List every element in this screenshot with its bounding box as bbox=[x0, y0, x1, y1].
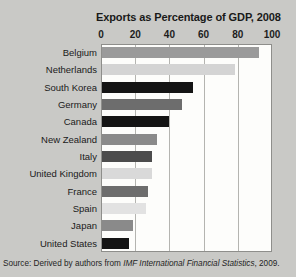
bar-row: Japan bbox=[0, 217, 296, 234]
bar-united-kingdom bbox=[102, 168, 152, 179]
x-axis-tick-labels: 020406080100 bbox=[0, 29, 296, 43]
x-tick-label-0: 0 bbox=[98, 29, 104, 40]
bar-belgium bbox=[102, 47, 259, 58]
x-tick-label-80: 80 bbox=[232, 29, 243, 40]
category-label: United Kingdom bbox=[0, 168, 97, 179]
bar-japan bbox=[102, 220, 133, 231]
source-suffix: , 2009. bbox=[255, 259, 280, 268]
bar-france bbox=[102, 186, 148, 197]
x-tick-label-40: 40 bbox=[164, 29, 175, 40]
category-label: Spain bbox=[0, 203, 97, 214]
category-label: Netherlands bbox=[0, 64, 97, 75]
x-tick-label-60: 60 bbox=[198, 29, 209, 40]
source-prefix: Source: Derived by authors from bbox=[3, 259, 123, 268]
bar-new-zealand bbox=[102, 134, 157, 145]
bar-spain bbox=[102, 203, 146, 214]
bar-united-states bbox=[102, 238, 129, 249]
bar-row: Netherlands bbox=[0, 61, 296, 78]
bar-south-korea bbox=[102, 82, 193, 93]
source-note: Source: Derived by authors from IMF Inte… bbox=[3, 259, 280, 268]
bar-row: Belgium bbox=[0, 44, 296, 61]
category-label: Japan bbox=[0, 220, 97, 231]
category-label: Canada bbox=[0, 116, 97, 127]
bar-row: United States bbox=[0, 235, 296, 252]
chart-title: Exports as Percentage of GDP, 2008 bbox=[96, 11, 280, 23]
chart-figure: Exports as Percentage of GDP, 2008 02040… bbox=[0, 0, 296, 277]
bar-row: Italy bbox=[0, 148, 296, 165]
category-label: Italy bbox=[0, 151, 97, 162]
x-tick-label-100: 100 bbox=[264, 29, 281, 40]
category-label: New Zealand bbox=[0, 134, 97, 145]
bar-row: New Zealand bbox=[0, 131, 296, 148]
bar-rows: BelgiumNetherlandsSouth KoreaGermanyCana… bbox=[0, 44, 296, 252]
bar-row: Germany bbox=[0, 96, 296, 113]
bar-canada bbox=[102, 116, 169, 127]
category-label: France bbox=[0, 186, 97, 197]
category-label: United States bbox=[0, 238, 97, 249]
bar-row: South Korea bbox=[0, 79, 296, 96]
x-tick-label-20: 20 bbox=[130, 29, 141, 40]
bar-row: Canada bbox=[0, 113, 296, 130]
category-label: South Korea bbox=[0, 82, 97, 93]
bar-row: Spain bbox=[0, 200, 296, 217]
source-publication: IMF International Financial Statistics bbox=[123, 259, 254, 268]
bar-row: United Kingdom bbox=[0, 165, 296, 182]
bar-row: France bbox=[0, 183, 296, 200]
bar-italy bbox=[102, 151, 152, 162]
bar-netherlands bbox=[102, 64, 235, 75]
bar-germany bbox=[102, 99, 182, 110]
category-label: Belgium bbox=[0, 47, 97, 58]
category-label: Germany bbox=[0, 99, 97, 110]
